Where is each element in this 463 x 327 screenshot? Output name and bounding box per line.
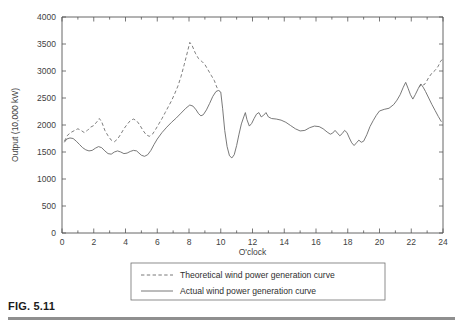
y-tick-label: 2500 <box>37 93 56 103</box>
caption-divider <box>8 317 455 320</box>
figure-caption-area: FIG. 5.11 <box>0 298 463 327</box>
x-tick-label: 2 <box>91 237 96 247</box>
plot-frame <box>62 17 443 233</box>
y-tick-label: 0 <box>51 228 56 238</box>
chart-canvas: 0500100015002000250030003500400002468101… <box>0 0 463 310</box>
x-tick-label: 10 <box>216 237 226 247</box>
y-tick-label: 2000 <box>37 120 56 130</box>
x-tick-label: 0 <box>60 237 65 247</box>
x-axis-title: O'clock <box>239 247 267 257</box>
x-tick-label: 18 <box>343 237 353 247</box>
x-tick-label: 24 <box>438 237 448 247</box>
data-series <box>64 42 442 158</box>
x-tick-label: 8 <box>187 237 192 247</box>
x-tick-label: 20 <box>375 237 385 247</box>
x-tick-label: 4 <box>123 237 128 247</box>
figure-number-label: FIG. 5.11 <box>8 300 55 312</box>
legend-label: Actual wind power generation curve <box>180 286 316 296</box>
y-tick-label: 500 <box>42 201 56 211</box>
x-tick-label: 16 <box>311 237 321 247</box>
x-tick-label: 12 <box>248 237 258 247</box>
x-tick-label: 22 <box>407 237 417 247</box>
axes: 0500100015002000250030003500400002468101… <box>10 12 448 257</box>
y-tick-label: 1000 <box>37 174 56 184</box>
x-tick-label: 14 <box>280 237 290 247</box>
x-tick-label: 6 <box>155 237 160 247</box>
series-line-actual <box>64 82 441 158</box>
chart-legend: Theoretical wind power generation curveA… <box>131 263 385 300</box>
legend-label: Theoretical wind power generation curve <box>180 270 335 280</box>
y-axis-title: Output (10,000 kW) <box>10 88 20 162</box>
figure-container: 0500100015002000250030003500400002468101… <box>0 0 463 327</box>
y-tick-label: 4000 <box>37 12 56 22</box>
y-tick-label: 3000 <box>37 66 56 76</box>
series-line-theoretical <box>64 42 219 141</box>
series-line-theoretical <box>419 59 442 87</box>
y-tick-label: 1500 <box>37 147 56 157</box>
y-tick-label: 3500 <box>37 39 56 49</box>
